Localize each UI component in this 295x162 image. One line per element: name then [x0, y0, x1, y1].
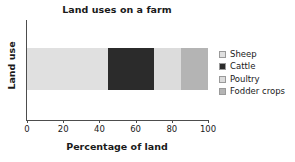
legend-item-label: Cattle	[230, 61, 255, 72]
x-tick-mark	[27, 120, 28, 123]
legend-swatch-icon	[219, 76, 226, 83]
legend-item-label: Fodder crops	[230, 86, 285, 97]
x-tick-mark	[208, 120, 209, 123]
legend-item[interactable]: Sheep	[219, 48, 285, 60]
x-tick-label: 40	[94, 124, 105, 134]
legend-item[interactable]: Fodder crops	[219, 86, 285, 98]
chart-title: Land uses on a farm	[26, 4, 208, 15]
x-tick-label: 20	[58, 124, 69, 134]
legend-swatch-icon	[219, 51, 226, 58]
legend-item-label: Sheep	[230, 49, 257, 60]
y-axis-label: Land use	[6, 26, 17, 106]
chart-legend: SheepCattlePoultryFodder crops	[219, 48, 285, 98]
x-tick-label: 80	[166, 124, 177, 134]
x-tick-mark	[63, 120, 64, 123]
plot-area: 020406080100	[26, 20, 208, 120]
legend-swatch-icon	[219, 63, 226, 70]
legend-item-label: Poultry	[230, 74, 260, 85]
bar-segment-cattle	[108, 48, 153, 90]
legend-item[interactable]: Cattle	[219, 61, 285, 73]
x-axis-label: Percentage of land	[26, 141, 208, 152]
legend-item[interactable]: Poultry	[219, 73, 285, 85]
x-tick-label: 0	[24, 124, 29, 134]
x-tick-label: 60	[130, 124, 141, 134]
x-tick-label: 100	[200, 124, 216, 134]
bar-segment-poultry	[154, 48, 181, 90]
x-axis-line	[26, 120, 209, 121]
bar-segment-sheep	[27, 48, 108, 90]
stacked-bar	[27, 48, 208, 90]
chart-figure: Land uses on a farm 020406080100 Percent…	[0, 0, 295, 162]
legend-swatch-icon	[219, 88, 226, 95]
x-tick-mark	[172, 120, 173, 123]
x-tick-mark	[99, 120, 100, 123]
bar-segment-fodder-crops	[181, 48, 208, 90]
x-tick-mark	[136, 120, 137, 123]
